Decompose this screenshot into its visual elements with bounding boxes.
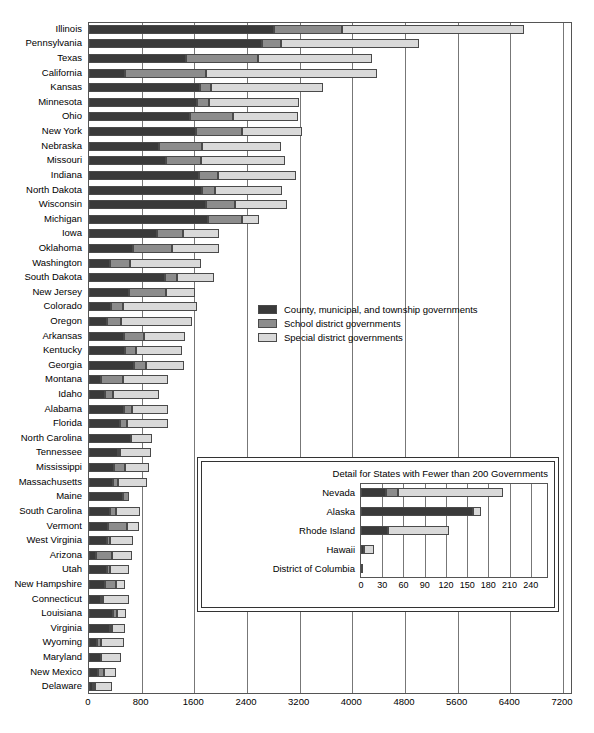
category-label: Oklahoma bbox=[0, 243, 85, 253]
inset-bar-district-of-columbia bbox=[361, 564, 363, 573]
segment-special bbox=[211, 83, 323, 92]
inset-bar-nevada bbox=[361, 488, 503, 497]
segment-school bbox=[200, 83, 211, 92]
segment-county bbox=[89, 361, 134, 370]
inset-panel: Detail for States with Fewer than 200 Go… bbox=[197, 457, 559, 612]
segment-school bbox=[110, 259, 130, 268]
category-label: Louisiana bbox=[0, 608, 85, 618]
category-label: Iowa bbox=[0, 228, 85, 238]
segment-county bbox=[89, 288, 129, 297]
inset-segment-county bbox=[361, 564, 363, 573]
segment-special bbox=[123, 302, 197, 311]
segment-county bbox=[89, 332, 124, 341]
segment-county bbox=[89, 317, 107, 326]
chart-root: IllinoisPennsylvaniaTexasCaliforniaKansa… bbox=[0, 0, 594, 733]
inset-segment-county bbox=[361, 507, 473, 516]
bar-delaware bbox=[89, 682, 112, 691]
inset-category-label: Nevada bbox=[201, 488, 358, 498]
bar-michigan bbox=[89, 215, 259, 224]
segment-special bbox=[131, 434, 152, 443]
category-label: Connecticut bbox=[0, 594, 85, 604]
bar-arizona bbox=[89, 551, 132, 560]
inset-segment-special bbox=[388, 526, 450, 535]
category-label: New Mexico bbox=[0, 667, 85, 677]
segment-special bbox=[110, 536, 132, 545]
legend-label: County, municipal, and township governme… bbox=[284, 304, 478, 315]
segment-school bbox=[166, 156, 201, 165]
category-label: Indiana bbox=[0, 170, 85, 180]
bar-oklahoma bbox=[89, 244, 219, 253]
inset-bar-rhode-island bbox=[361, 526, 449, 535]
segment-special bbox=[202, 142, 281, 151]
category-label: North Dakota bbox=[0, 185, 85, 195]
segment-school bbox=[101, 375, 123, 384]
segment-school bbox=[133, 244, 172, 253]
x-tick-label: 4800 bbox=[393, 696, 414, 707]
inset-x-tick-label: 240 bbox=[523, 580, 538, 590]
segment-county bbox=[89, 638, 97, 647]
segment-special bbox=[281, 39, 419, 48]
segment-special bbox=[242, 215, 258, 224]
category-label: Delaware bbox=[0, 681, 85, 691]
main-x-axis: 080016002400320040004800560064007200 bbox=[0, 696, 594, 716]
category-label: Alabama bbox=[0, 404, 85, 414]
main-category-labels: IllinoisPennsylvaniaTexasCaliforniaKansa… bbox=[0, 22, 85, 694]
inset-x-tick-label: 120 bbox=[438, 580, 453, 590]
inset-category-label: District of Columbia bbox=[201, 564, 358, 574]
segment-school bbox=[202, 186, 215, 195]
inset-x-tick-label: 30 bbox=[377, 580, 387, 590]
category-label: Idaho bbox=[0, 389, 85, 399]
segment-special bbox=[206, 69, 377, 78]
category-label: Pennsylvania bbox=[0, 38, 85, 48]
bar-tennessee bbox=[89, 448, 151, 457]
segment-special bbox=[112, 551, 132, 560]
segment-county bbox=[89, 522, 108, 531]
segment-special bbox=[116, 507, 140, 516]
segment-special bbox=[127, 419, 168, 428]
bar-oregon bbox=[89, 317, 192, 326]
bar-kansas bbox=[89, 83, 323, 92]
legend-swatch-icon bbox=[258, 319, 277, 328]
bar-kentucky bbox=[89, 346, 182, 355]
bar-arkansas bbox=[89, 332, 185, 341]
segment-special bbox=[144, 332, 185, 341]
inset-x-tick-label: 180 bbox=[481, 580, 496, 590]
category-label: Maine bbox=[0, 491, 85, 501]
segment-special bbox=[136, 346, 182, 355]
bar-minnesota bbox=[89, 98, 299, 107]
legend: County, municipal, and township governme… bbox=[258, 304, 508, 346]
x-tick-label: 4000 bbox=[341, 696, 362, 707]
segment-special bbox=[127, 522, 139, 531]
bar-massachusetts bbox=[89, 478, 147, 487]
category-label: Kentucky bbox=[0, 345, 85, 355]
category-label: Montana bbox=[0, 374, 85, 384]
inset-segment-county bbox=[361, 526, 388, 535]
segment-special bbox=[101, 653, 121, 662]
category-label: West Virginia bbox=[0, 535, 85, 545]
segment-county bbox=[89, 39, 262, 48]
segment-school bbox=[125, 346, 137, 355]
segment-school bbox=[114, 463, 125, 472]
category-label: Tennessee bbox=[0, 447, 85, 457]
category-label: South Carolina bbox=[0, 506, 85, 516]
inset-bar-alaska bbox=[361, 507, 481, 516]
segment-county bbox=[89, 346, 125, 355]
bar-pennsylvania bbox=[89, 39, 419, 48]
segment-county bbox=[89, 142, 159, 151]
bar-colorado bbox=[89, 302, 197, 311]
bar-idaho bbox=[89, 390, 159, 399]
inset-segment-special bbox=[398, 488, 503, 497]
segment-county bbox=[89, 492, 123, 501]
segment-school bbox=[105, 580, 116, 589]
bar-new-hampshire bbox=[89, 580, 125, 589]
category-label: Illinois bbox=[0, 24, 85, 34]
segment-special bbox=[242, 127, 302, 136]
segment-special bbox=[177, 273, 215, 282]
inset-category-label: Hawaii bbox=[201, 545, 358, 555]
segment-county bbox=[89, 156, 166, 165]
category-label: New York bbox=[0, 126, 85, 136]
segment-school bbox=[190, 112, 233, 121]
segment-school bbox=[108, 522, 127, 531]
inset-x-tick-label: 150 bbox=[460, 580, 475, 590]
segment-county bbox=[89, 259, 110, 268]
